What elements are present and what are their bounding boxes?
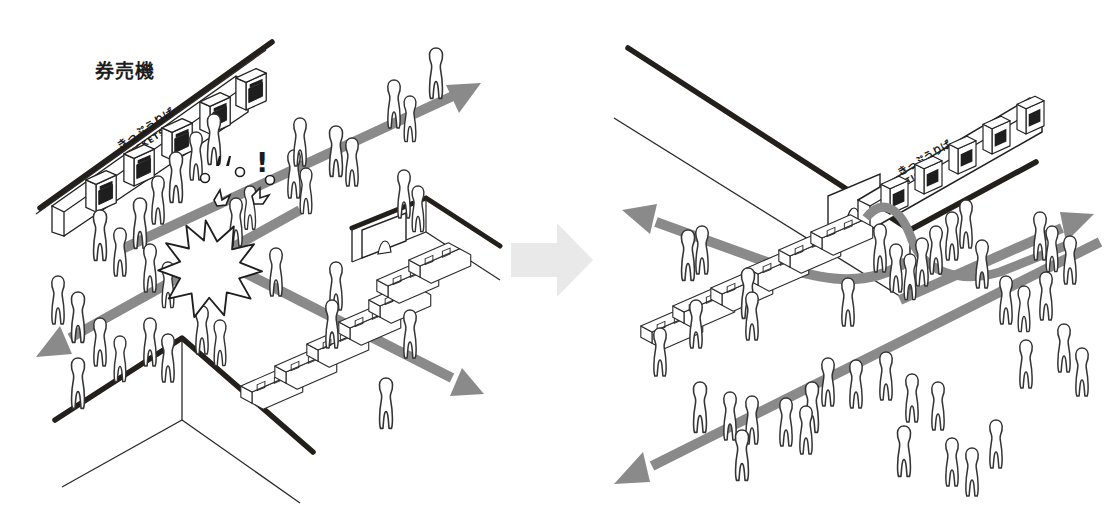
before-caption-ticket-machine: 券売機 — [95, 62, 155, 81]
transition-arrow — [505, 215, 600, 305]
after-panel: きっぷうりば TICKETS — [600, 0, 1114, 515]
svg-text:!: ! — [256, 147, 268, 178]
diagram-canvas: きっぷうりば TICKETS — [0, 0, 1114, 515]
transition-arrow-wrap — [505, 215, 600, 305]
before-panel: きっぷうりば TICKETS — [0, 0, 510, 515]
corner-pillar-base — [62, 420, 300, 503]
before-panel-illustration: きっぷうりば TICKETS — [0, 0, 510, 515]
after-panel-illustration: きっぷうりば TICKETS — [600, 0, 1114, 515]
exclamation-mark: ! — [256, 147, 268, 178]
